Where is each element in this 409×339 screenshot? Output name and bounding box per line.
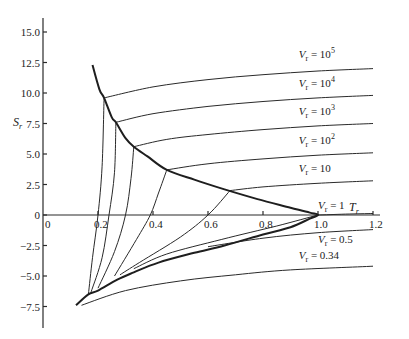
x-tick-label: 0 (45, 218, 51, 230)
y-tick-label: 2.5 (26, 179, 40, 191)
y-tick-label: 12.5 (21, 57, 41, 69)
x-tick-label: 0.4 (149, 218, 163, 230)
isochore-inner-line (88, 98, 104, 294)
y-tick-label: 15.0 (21, 26, 41, 38)
y-tick-label: −2.5 (20, 240, 40, 252)
isochore-inner-line (91, 122, 116, 292)
plot-area: 15.012.510.07.55.02.50−2.5−5.0−7.500.20.… (0, 0, 409, 339)
x-tick-label: 1.0 (314, 218, 328, 230)
y-tick-label: −5.0 (20, 270, 40, 282)
isochore-label: Vr = 105 (299, 46, 335, 63)
isochore-label: Vr = 10 (299, 162, 332, 177)
isochore-outer-line (134, 124, 373, 147)
y-tick-label: 0 (35, 209, 41, 221)
y-axis-title: Sr (13, 115, 23, 131)
isochore-label: Vr = 0.34 (299, 249, 340, 264)
y-tick-label: 10.0 (21, 87, 41, 99)
isochore-label: Vr = 0.5 (318, 233, 353, 248)
isochore-label: Vr = 103 (299, 103, 335, 120)
entropy-temperature-chart: 15.012.510.07.55.02.50−2.5−5.0−7.500.20.… (0, 0, 409, 339)
isochore-outer-line (230, 181, 373, 191)
x-tick-label: 1.2 (369, 218, 383, 230)
x-axis-title: Tr (349, 200, 360, 216)
y-tick-label: 5.0 (26, 148, 40, 160)
isochore-label: Vr = 102 (299, 132, 335, 149)
y-tick-label: −7.5 (20, 301, 40, 313)
isochore-label: Vr = 104 (299, 75, 335, 92)
isochore-outer-line (167, 153, 373, 170)
x-tick-label: 0.6 (204, 218, 218, 230)
isochore-inner-line (120, 191, 230, 275)
isochore-label: Vr = 1 (318, 199, 345, 214)
y-tick-label: 7.5 (26, 118, 40, 130)
isochore-outer-line (82, 266, 374, 305)
isochore (82, 266, 374, 305)
